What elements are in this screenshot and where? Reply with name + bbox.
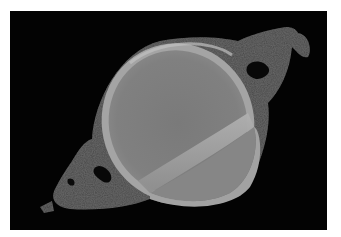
image-frame [10, 11, 327, 230]
scan-image [10, 11, 327, 230]
